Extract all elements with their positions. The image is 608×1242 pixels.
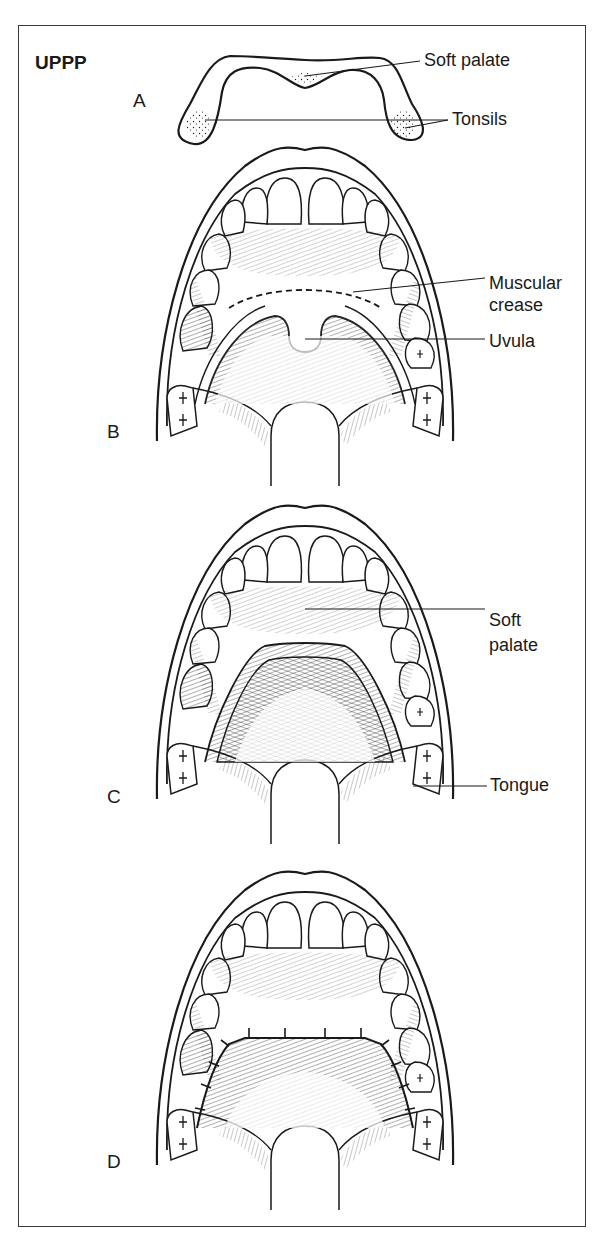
panel-label-c: C	[107, 786, 121, 808]
figure-title: UPPP	[35, 52, 87, 74]
label-c-soft: Soft	[489, 610, 521, 631]
label-a-tonsils: Tonsils	[452, 109, 507, 130]
panel-a-specimen	[178, 56, 448, 144]
panel-label-a: A	[133, 90, 146, 112]
label-a-soft-palate: Soft palate	[424, 50, 510, 71]
label-b-muscular: Muscular	[489, 273, 562, 294]
panel-d-mouth	[157, 871, 453, 1210]
label-b-uvula: Uvula	[489, 331, 535, 352]
panel-b-mouth	[157, 147, 485, 486]
panel-c-mouth	[157, 505, 487, 844]
label-b-crease: crease	[489, 295, 543, 316]
panel-label-b: B	[107, 421, 120, 443]
panel-label-d: D	[107, 1151, 121, 1173]
label-c-palate: palate	[489, 635, 538, 656]
label-c-tongue: Tongue	[490, 775, 549, 796]
